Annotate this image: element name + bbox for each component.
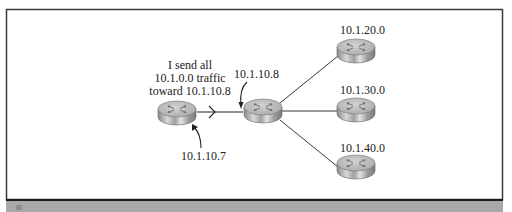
annotation-line-3: toward 10.1.10.8 <box>130 85 250 98</box>
label-network-30: 10.1.30.0 <box>340 84 385 97</box>
router-icon-net-40 <box>337 155 375 179</box>
router-icon-source <box>158 101 196 125</box>
figure-caption-bar <box>6 199 503 212</box>
label-network-20: 10.1.20.0 <box>340 24 385 37</box>
router-icon-hub <box>244 99 282 123</box>
router-icon-net-30 <box>337 98 375 122</box>
network-diagram <box>0 0 512 212</box>
label-network-40: 10.1.40.0 <box>340 142 385 155</box>
router-icon-net-20 <box>337 39 375 63</box>
routing-annotation: I send all 10.1.0.0 traffic toward 10.1.… <box>130 59 250 98</box>
label-hub-interface: 10.1.10.8 <box>234 68 279 81</box>
label-source-interface: 10.1.10.7 <box>181 150 226 163</box>
caption-marker <box>16 205 22 210</box>
